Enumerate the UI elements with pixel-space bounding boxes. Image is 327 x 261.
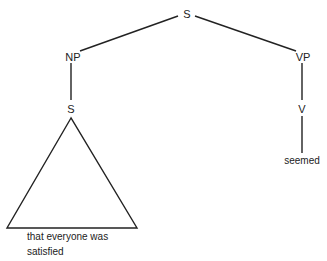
- leaf-seemed: seemed: [284, 155, 320, 167]
- tree-edges: [0, 0, 327, 261]
- node-np: NP: [65, 51, 80, 63]
- leaf-clause-line2: satisfied: [27, 246, 64, 258]
- node-embedded-s: S: [67, 103, 74, 115]
- triangle-embedded-clause: [7, 118, 137, 228]
- node-root-s: S: [183, 8, 190, 20]
- leaf-clause-line1: that everyone was: [27, 231, 108, 243]
- node-v: V: [298, 103, 305, 115]
- edge-s-vp: [195, 16, 296, 51]
- edge-s-np: [80, 16, 178, 51]
- node-vp: VP: [296, 51, 311, 63]
